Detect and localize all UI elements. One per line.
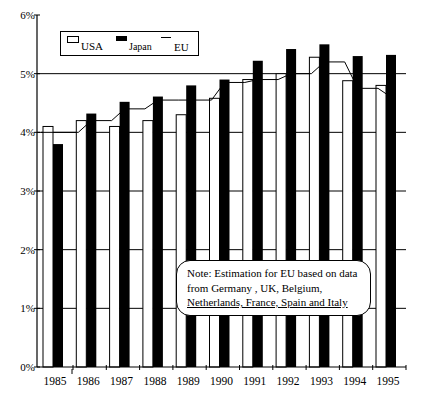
note-line-2: from Germany , UK, Belgium, [187,281,370,296]
bar-japan-1987 [120,102,130,367]
x-tick-label: 1994 [343,375,366,387]
legend-japan-swatch-icon [116,36,127,41]
legend-japan-label: Japan [129,41,152,52]
bar-japan-1986 [86,114,96,367]
bar-usa-1986 [76,121,86,367]
bar-japan-1995 [386,55,396,367]
y-tick-label: 3% [20,185,35,197]
bar-usa-1992 [276,74,286,367]
bar-usa-1991 [243,80,253,367]
x-tick-label: 1990 [210,375,233,387]
y-tick-label: 2% [20,244,35,256]
legend-usa-label: USA [81,40,103,52]
bar-japan-1988 [153,97,163,367]
y-tick-label: 4% [20,126,35,138]
bar-japan-1985 [53,144,63,367]
x-tick-label: 1988 [143,375,166,387]
legend-usa-swatch-icon [67,36,79,43]
bar-usa-1989 [176,115,186,367]
bar-japan-1993 [319,44,329,367]
legend-eu-line-icon [161,37,171,38]
y-tick-label: 6% [20,9,35,21]
bar-usa-1988 [143,121,153,367]
note-line-3: Netherlands, France, Spain and Italy [187,295,370,310]
x-tick-label: 1993 [310,375,333,387]
bar-chart: 0%1%2%3%4%5%6%19851986198719881989199019… [0,0,422,406]
x-tick-label: 1991 [243,375,266,387]
x-tick-label: 1989 [177,375,200,387]
bar-japan-1990 [220,80,230,367]
x-tick-label: 1987 [110,375,133,387]
bar-usa-1987 [110,126,120,367]
bar-japan-1994 [353,56,363,367]
x-tick-label: 1995 [377,375,400,387]
bars [43,44,396,367]
legend-eu-label: EU [174,41,189,53]
bar-japan-1989 [186,85,196,367]
bar-usa-1985 [43,126,53,367]
chart-legend: USA Japan EU [60,31,199,56]
x-tick-label: 1986 [77,375,100,387]
x-tick-label: 1992 [277,375,300,387]
bar-japan-1992 [286,49,296,367]
y-tick-label: 0% [20,361,35,373]
note-line-1: Note: Estimation for EU based on data [187,266,370,281]
bar-usa-1995 [376,85,386,367]
bar-usa-1993 [309,57,319,367]
note-annotation: Note: Estimation for EU based on data fr… [176,260,371,316]
y-tick-label: 5% [20,68,35,80]
y-tick-label: 1% [20,302,35,314]
bar-usa-1994 [343,81,353,367]
x-tick-label: 1985 [44,375,67,387]
bar-japan-1991 [253,61,263,367]
bar-usa-1990 [210,98,220,367]
